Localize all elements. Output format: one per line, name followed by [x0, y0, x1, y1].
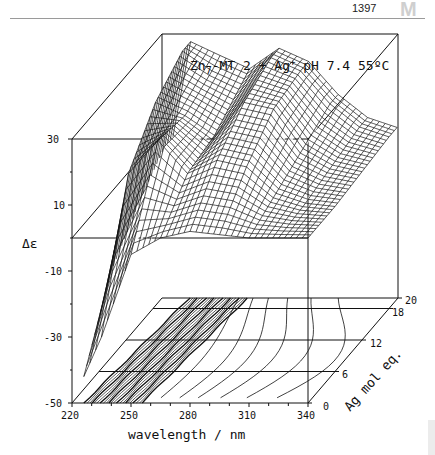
chart-title: Zn7-MT 2 + Ag+ pH 7.4 55ºC	[190, 57, 389, 76]
y-tick-minus30: -30	[44, 332, 62, 343]
y-axis-title: Δε	[22, 236, 38, 251]
x-tick-340: 340	[297, 410, 315, 421]
z-axis-title: Ag mol eq.	[341, 346, 405, 414]
z-tick-12: 12	[370, 338, 382, 349]
x-tick-220: 220	[61, 410, 79, 421]
y-tick-minus50: -50	[44, 398, 62, 409]
z-tick-6: 6	[342, 369, 348, 380]
x-tick-250: 250	[120, 410, 138, 421]
x-tick-280: 280	[179, 410, 197, 421]
wireframe-surface	[84, 42, 397, 377]
y-tick-30: 30	[47, 134, 59, 145]
z-tick-18: 18	[392, 307, 404, 318]
y-tick-10: 10	[53, 200, 65, 211]
contour-floor	[72, 298, 398, 403]
x-axis-title: wavelength / nm	[128, 427, 246, 442]
y-tick-minus10: -10	[44, 266, 62, 277]
z-tick-20: 20	[405, 295, 417, 306]
x-tick-310: 310	[238, 410, 256, 421]
z-tick-0: 0	[323, 401, 329, 412]
cd-surface-plot: Zn7-MT 2 + Ag+ pH 7.4 55ºC 30 10 -10 -30…	[0, 0, 435, 455]
